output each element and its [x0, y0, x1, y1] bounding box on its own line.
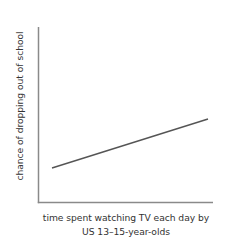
x-axis-label: time spent watching TV each day by US 13… [38, 211, 214, 238]
trend-line [52, 119, 208, 168]
chart-figure: chance of dropping out of school time sp… [0, 0, 230, 249]
x-axis-label-line-1: time spent watching TV each day by [38, 211, 214, 225]
x-axis-label-line-2: US 13–15-year-olds [38, 225, 214, 239]
